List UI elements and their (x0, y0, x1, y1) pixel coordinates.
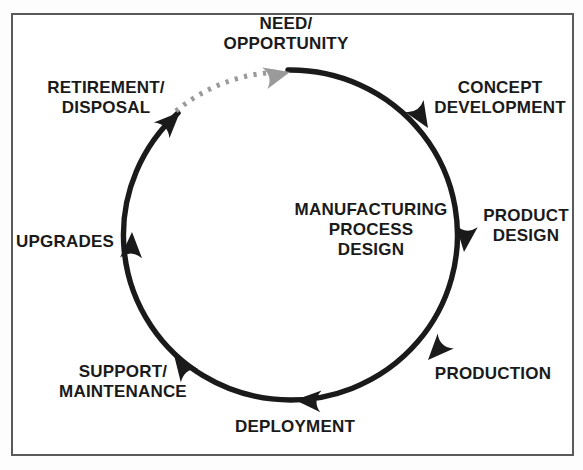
center-label-manufacturing-process-design: MANUFACTURING PROCESS DESIGN (285, 200, 457, 261)
node-label-support-maintenance: SUPPORT/ MAINTENANCE (48, 362, 198, 402)
arrowhead-need-opportunity (262, 61, 293, 89)
arrowhead-production (420, 333, 454, 367)
node-label-need-opportunity: NEED/ OPPORTUNITY (196, 14, 376, 54)
node-label-retirement-disposal: RETIREMENT/ DISPOSAL (36, 78, 176, 118)
node-label-concept-development: CONCEPT DEVELOPMENT (420, 78, 580, 118)
node-label-production: PRODUCTION (413, 364, 573, 384)
cycle-arc-dotted (176, 72, 281, 111)
node-label-upgrades: UPGRADES (12, 232, 118, 252)
node-label-product-design: PRODUCT DESIGN (473, 206, 579, 246)
arrowhead-deployment (294, 389, 321, 412)
node-label-deployment: DEPLOYMENT (210, 417, 380, 437)
diagram-canvas: NEED/ OPPORTUNITY CONCEPT DEVELOPMENT PR… (0, 0, 583, 470)
